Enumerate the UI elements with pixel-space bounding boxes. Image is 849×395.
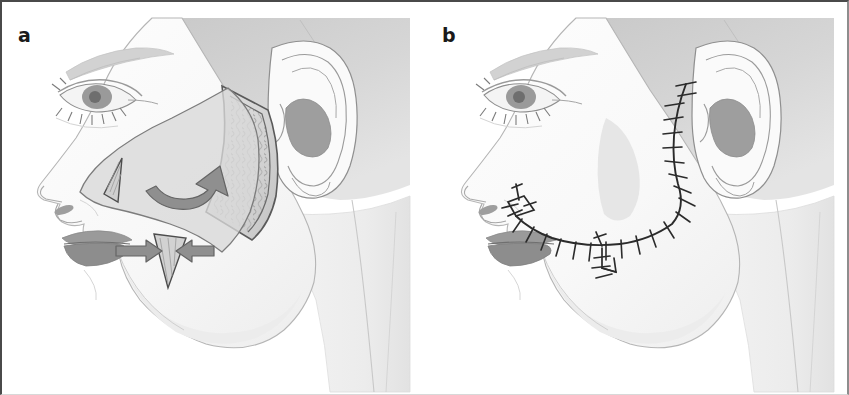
ear [692,41,781,198]
panel-b-illustration [424,0,848,395]
panel-a-label: a [18,26,31,45]
panel-b: b [424,0,848,395]
figure-container: a [0,0,849,395]
chin [84,270,96,300]
ear [268,41,357,198]
panel-a-illustration [0,0,424,395]
pupil [89,91,101,103]
pupil [513,91,525,103]
panel-a: a [0,0,424,395]
panel-b-label: b [442,26,456,45]
chin [508,270,520,300]
